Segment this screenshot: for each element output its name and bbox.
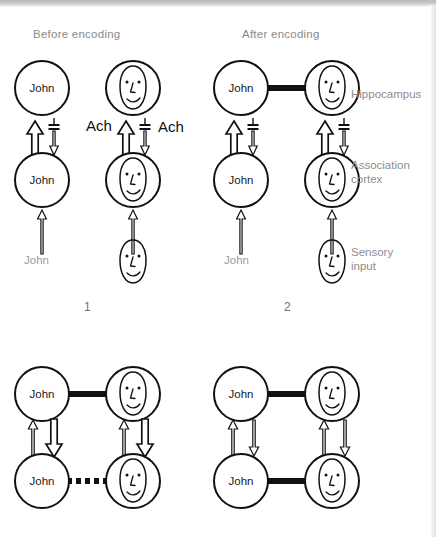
panel-3-association-left-label: John (30, 475, 55, 487)
row-label-sensory-input: Sensory input (351, 246, 393, 273)
panel-4-association-left-label: John (229, 475, 254, 487)
panel-1-left-inhibited-down-arrow (49, 118, 60, 155)
panel-3-hippocampus-right-node (106, 367, 160, 421)
panel-4-right-thin-down-arrow (340, 420, 349, 456)
panel-4-right-thin-up-arrow (319, 420, 328, 456)
panel-1-association-left-label: John (30, 174, 55, 186)
panel-3-association-right-node (106, 454, 160, 508)
panel-4-left-thin-up-arrow (228, 420, 237, 456)
panel-number-1: 1 (84, 300, 91, 314)
panel-1-right-sensory-arrow (129, 210, 138, 254)
panel-4-hippocampus-right-node (305, 367, 359, 421)
panel-3-hippocampus-left-label: John (30, 388, 55, 400)
panel-2-association-left-label: John (229, 174, 254, 186)
row-label-hippocampus: Hippocampus (351, 88, 421, 102)
panel-2-sensory-stimulus-label: John (224, 254, 249, 266)
row-label-association-line2: cortex (351, 173, 382, 185)
panel-1-hippocampus-left-label: John (30, 82, 55, 94)
panel-2-group (214, 61, 359, 283)
panel-4-hippocampus-left-label: John (229, 388, 254, 400)
panel-1-left-sensory-arrow (38, 210, 47, 254)
panel-1-group (15, 61, 160, 283)
panel-3-left-thick-down-arrow (46, 419, 62, 457)
panel-1-right-inhibited-down-arrow (140, 118, 151, 155)
row-label-sensory-line1: Sensory (351, 246, 393, 258)
header-before-encoding: Before encoding (33, 28, 121, 40)
panel-1-sensory-stimulus-label: John (24, 254, 49, 266)
row-label-sensory-line2: input (351, 260, 376, 272)
ach-label-panel1-right: Ach (158, 118, 184, 135)
panel-4-association-right-node (305, 454, 359, 508)
panel-2-left-inhibited-down-arrow (248, 118, 259, 155)
panel-2-right-inhibited-down-arrow (339, 118, 350, 155)
panel-1-association-right-node (106, 153, 160, 207)
panel-4-left-thin-down-arrow (249, 420, 258, 456)
row-label-association-cortex: Association cortex (351, 159, 410, 186)
panel-2-left-sensory-arrow (237, 210, 246, 254)
memory-encoding-diagram: Before encoding After encoding Hippocamp… (0, 0, 436, 537)
panel-3-left-thin-up-arrow (28, 420, 37, 456)
ach-label-panel1-left: Ach (86, 117, 112, 134)
panel-3-right-thick-down-arrow (137, 419, 153, 457)
panel-2-hippocampus-left-label: John (229, 82, 254, 94)
panel-number-2: 2 (284, 300, 291, 314)
row-label-association-line1: Association (351, 159, 410, 171)
header-after-encoding: After encoding (242, 28, 320, 40)
panel-3-right-thin-up-arrow (119, 420, 128, 456)
panel-1-hippocampus-right-node (106, 61, 160, 115)
panel-2-right-sensory-arrow (328, 210, 337, 254)
